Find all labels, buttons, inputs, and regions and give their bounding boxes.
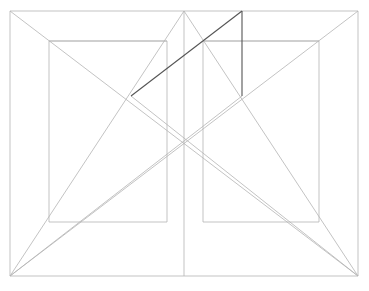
bottomleft-to-right-crossing bbox=[10, 96, 242, 276]
geometric-figure bbox=[0, 0, 369, 291]
apex-to-bottomleft bbox=[10, 11, 184, 276]
right-inner-rect-group bbox=[203, 41, 319, 222]
highlight-diagonal bbox=[131, 11, 242, 96]
drawing-canvas bbox=[0, 0, 369, 291]
highlight-lines-group bbox=[131, 11, 242, 96]
left-inner-rect-group bbox=[49, 41, 167, 222]
bottomright-to-left-crossing bbox=[131, 96, 358, 276]
apex-to-bottomright bbox=[184, 11, 358, 276]
